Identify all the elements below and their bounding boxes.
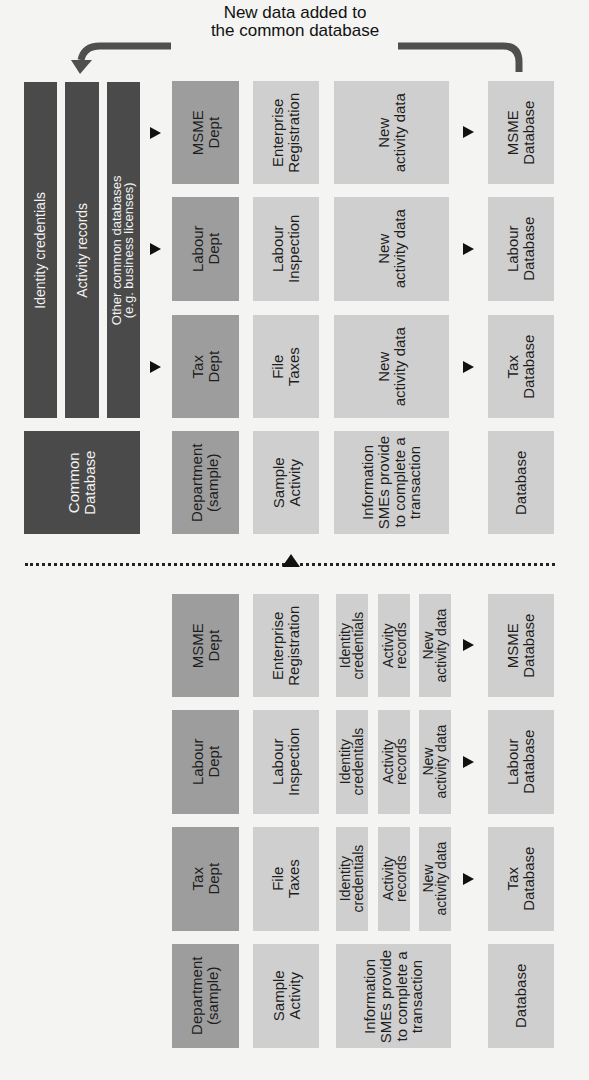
database-tax: Tax Database [488,827,554,931]
department-labour: Labour Dept [172,710,239,814]
arrow-up-icon [282,554,300,567]
common-database-box: Common Database [24,431,140,534]
info-new-activity-data: New activity data [419,827,451,931]
arrow-right-icon [463,873,474,885]
activity-enterprise-registration: Enterprise Registration [253,594,319,697]
info-activity-records: Activity records [378,827,410,931]
header-database: Database [488,944,554,1048]
activity-labour-inspection: Labour Inspection [253,710,319,814]
arrow-right-icon [150,243,161,255]
header-department: Department (sample) [172,944,239,1048]
department-msme: MSME Dept [172,81,239,184]
info-activity-records: Activity records [378,594,410,697]
database-labour: Labour Database [488,197,554,301]
arrow-right-icon [463,361,474,373]
arrow-title: New data added to the common database [175,4,415,41]
department-labour: Labour Dept [172,197,239,301]
database-msme: MSME Database [488,81,554,184]
arrow-right-icon [463,126,474,138]
info-activity-records: Activity records [378,710,410,814]
info-new-activity-data: New activity data [334,81,449,184]
database-msme: MSME Database [488,594,554,697]
info-identity-credentials: Identity credentials [336,827,368,931]
header-department: Department (sample) [172,431,239,534]
arrow-right-icon [150,127,161,139]
header-information: Information SMEs provide to complete a t… [334,431,449,534]
info-new-activity-data: New activity data [419,710,451,814]
info-new-activity-data: New activity data [419,594,451,697]
arrow-right-icon [463,243,474,255]
activity-file-taxes: File Taxes [253,827,319,931]
department-msme: MSME Dept [172,594,239,697]
info-new-activity-data: New activity data [334,315,449,418]
activity-labour-inspection: Labour Inspection [253,197,319,301]
arrow-right-icon [150,361,161,373]
info-identity-credentials: Identity credentials [336,710,368,814]
database-labour: Labour Database [488,710,554,814]
bar-other-common-databases: Other common databases (e.g. business li… [107,82,140,418]
header-activity: Sample Activity [253,944,319,1048]
department-tax: Tax Dept [172,827,239,931]
header-information: Information SMEs provide to complete a t… [336,944,451,1048]
activity-enterprise-registration: Enterprise Registration [253,81,319,184]
header-activity: Sample Activity [253,431,319,534]
info-new-activity-data: New activity data [334,197,449,301]
bar-activity-records: Activity records [65,82,99,418]
header-database: Database [488,431,554,534]
database-tax: Tax Database [488,315,554,418]
arrow-right-icon [463,756,474,768]
activity-file-taxes: File Taxes [253,315,319,418]
bar-identity-credentials: Identity credentials [24,82,57,418]
info-identity-credentials: Identity credentials [336,594,368,697]
arrow-right-icon [463,639,474,651]
department-tax: Tax Dept [172,315,239,418]
